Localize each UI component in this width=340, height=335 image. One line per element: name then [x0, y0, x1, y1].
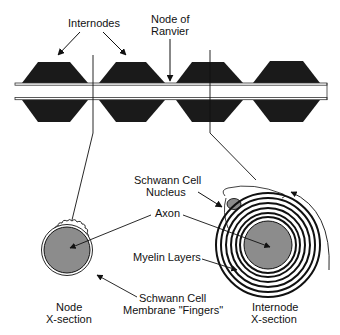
- myelin-sheath-bottom: [22, 100, 320, 122]
- myelin-sheath-top: [22, 61, 320, 83]
- axon-tube: [15, 83, 327, 100]
- internode-segment-1-top: [22, 62, 88, 83]
- myelin-layers-label: Myelin Layers: [133, 251, 201, 263]
- node-of-ranvier-label-line1: Node of: [151, 13, 190, 25]
- axon-label: Axon: [155, 207, 180, 219]
- internode-xsection-label-line1: Internode: [252, 301, 298, 313]
- schwann-membrane-label-line1: Schwann Cell: [139, 292, 206, 304]
- internode-segment-1-bottom: [22, 100, 88, 122]
- internode-segment-4-top: [253, 61, 320, 83]
- internodes-arrow-left: [58, 32, 80, 55]
- schwann-nucleus-label-line2: Nucleus: [146, 186, 186, 198]
- internode-segment-3-bottom: [176, 100, 243, 122]
- node-xsection-label-line2: X-section: [46, 313, 92, 325]
- schwann-membrane-arrow: [97, 275, 137, 297]
- schwann-nucleus-label-line1: Schwann Cell: [134, 174, 201, 186]
- node-of-ranvier-label-line2: Ranvier: [151, 25, 189, 37]
- internodes-arrow-right: [103, 32, 126, 55]
- internode-axon-core: [244, 221, 292, 269]
- node-xsection-label-line1: Node: [56, 301, 82, 313]
- internode-segment-4-bottom: [253, 100, 320, 122]
- node-xsection: [42, 220, 93, 276]
- node-axon-core: [44, 227, 90, 273]
- schwann-nucleus-arrow: [198, 192, 222, 207]
- internode-segment-2-top: [99, 62, 165, 83]
- internode-xsection: [216, 186, 329, 297]
- myelinated-axon-diagram: Internodes Node of Ranvier Schwann Cell …: [0, 0, 340, 335]
- internode-segment-3-top: [176, 62, 243, 83]
- internodes-label: Internodes: [68, 17, 120, 29]
- internode-xsection-label-line2: X-section: [251, 313, 297, 325]
- schwann-membrane-label-line2: Membrane "Fingers": [123, 304, 223, 316]
- internode-segment-2-bottom: [99, 100, 165, 122]
